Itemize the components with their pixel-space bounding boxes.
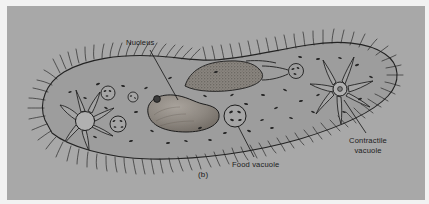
forming-food-vacuole: [289, 64, 304, 79]
label-food-vacuole: Food vacuole: [232, 160, 279, 170]
label-contractile-line1: Contractile: [349, 136, 387, 145]
micronucleus: [154, 96, 161, 103]
paramecium-illustration: [0, 0, 429, 204]
label-nucleus: Nucleus: [126, 38, 155, 48]
food-vacuole: [224, 105, 246, 127]
label-contractile-vacuole: Contractile vacuole: [337, 136, 399, 155]
figure-container: Nucleus Food vacuole Contractile vacuole…: [0, 0, 429, 204]
label-contractile-line2: vacuole: [354, 146, 381, 155]
figure-caption: (b): [198, 170, 208, 180]
